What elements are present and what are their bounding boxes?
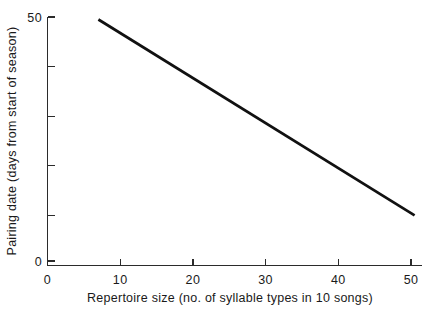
x-tick-label-20: 20 bbox=[186, 273, 201, 287]
x-tick-label-40: 40 bbox=[331, 273, 346, 287]
y-tick-label-50: 50 bbox=[27, 11, 42, 25]
x-axis-title: Repertoire size (no. of syllable types i… bbox=[87, 291, 373, 305]
x-tick-label-0: 0 bbox=[44, 273, 51, 287]
regression-line bbox=[98, 20, 414, 216]
x-axis-ticks bbox=[48, 259, 412, 266]
x-tick-label-30: 30 bbox=[258, 273, 273, 287]
x-tick-label-10: 10 bbox=[113, 273, 128, 287]
figure-container: 50 0 0 10 20 30 40 50 Repertoire size (n… bbox=[0, 0, 430, 310]
y-axis-title: Pairing date (days from start of season) bbox=[5, 27, 19, 256]
x-tick-label-50: 50 bbox=[404, 273, 419, 287]
chart-canvas: 50 0 0 10 20 30 40 50 Repertoire size (n… bbox=[0, 0, 430, 310]
y-axis-ticks bbox=[48, 17, 55, 261]
y-tick-label-0: 0 bbox=[35, 255, 42, 269]
